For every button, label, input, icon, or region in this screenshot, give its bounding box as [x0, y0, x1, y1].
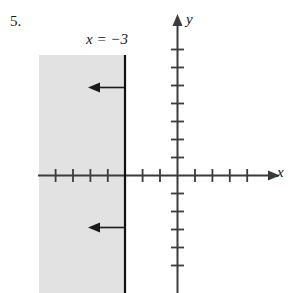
inequality-graph-figure: 5. x = −3 [0, 0, 295, 293]
y-axis-label: y [186, 12, 193, 27]
y-axis [173, 14, 183, 293]
shaded-region [39, 55, 125, 293]
coordinate-plane [0, 0, 295, 293]
x-axis-label: x [277, 165, 284, 180]
